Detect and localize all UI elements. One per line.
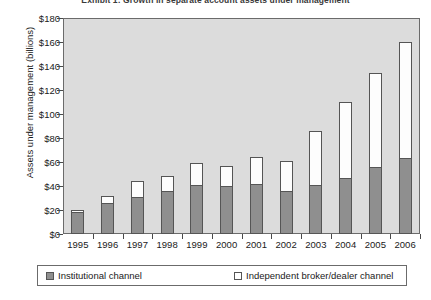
bar-column bbox=[190, 18, 203, 234]
bar-segment-broker-dealer bbox=[131, 181, 144, 198]
bar-segment-broker-dealer bbox=[220, 166, 233, 187]
chart-legend: Institutional channel Independent broker… bbox=[37, 265, 407, 286]
chart-figure: Exhibit 1: Growth in separate account as… bbox=[0, 0, 431, 300]
plot-area bbox=[63, 18, 420, 234]
bar-segment-institutional bbox=[131, 197, 144, 234]
y-axis-tick-mark bbox=[57, 66, 63, 67]
y-axis-tick-mark bbox=[57, 234, 63, 235]
bar-segment-broker-dealer bbox=[280, 161, 293, 192]
bar-segment-institutional bbox=[309, 185, 322, 234]
bar-segment-institutional bbox=[250, 184, 263, 234]
chart-title: Exhibit 1: Growth in separate account as… bbox=[0, 0, 431, 5]
bar-column bbox=[339, 18, 352, 234]
y-axis-tick-mark bbox=[57, 162, 63, 163]
legend-item-broker-dealer: Independent broker/dealer channel bbox=[234, 270, 393, 282]
y-axis-tick-mark bbox=[57, 138, 63, 139]
bar-segment-broker-dealer bbox=[309, 131, 322, 186]
y-axis-tick-label: $100 bbox=[20, 109, 60, 120]
legend-swatch-icon-institutional bbox=[46, 272, 54, 280]
y-axis-tick-mark bbox=[57, 90, 63, 91]
bar-segment-broker-dealer bbox=[190, 163, 203, 186]
legend-item-institutional: Institutional channel bbox=[46, 270, 142, 282]
bar-segment-broker-dealer bbox=[71, 210, 84, 213]
bar-column bbox=[399, 18, 412, 234]
y-axis-tick-mark bbox=[57, 186, 63, 187]
bar-segment-broker-dealer bbox=[369, 73, 382, 168]
bar-segment-broker-dealer bbox=[339, 102, 352, 179]
bar-column bbox=[309, 18, 322, 234]
bar-column bbox=[250, 18, 263, 234]
y-axis-tick-label: $140 bbox=[20, 61, 60, 72]
y-axis-tick-label: $0 bbox=[20, 229, 60, 240]
bar-segment-institutional bbox=[280, 191, 293, 234]
legend-swatch-icon-broker-dealer bbox=[234, 272, 242, 280]
bar-column bbox=[161, 18, 174, 234]
bar-column bbox=[101, 18, 114, 234]
y-axis-tick-label: $60 bbox=[20, 157, 60, 168]
bar-segment-broker-dealer bbox=[161, 176, 174, 191]
bar-column bbox=[71, 18, 84, 234]
y-axis-tick-mark bbox=[57, 114, 63, 115]
bar-column bbox=[131, 18, 144, 234]
bar-column bbox=[220, 18, 233, 234]
x-axis-tick-label: 2006 bbox=[385, 239, 425, 250]
bar-segment-broker-dealer bbox=[101, 196, 114, 204]
y-axis-tick-mark bbox=[57, 42, 63, 43]
y-axis-tick-mark bbox=[57, 210, 63, 211]
bar-segment-institutional bbox=[190, 185, 203, 234]
bar-segment-institutional bbox=[369, 167, 382, 234]
bar-column bbox=[280, 18, 293, 234]
bar-segment-broker-dealer bbox=[250, 157, 263, 184]
y-axis-tick-label: $40 bbox=[20, 181, 60, 192]
y-axis-tick-mark bbox=[57, 18, 63, 19]
bar-segment-institutional bbox=[399, 158, 412, 234]
y-axis-tick-label: $20 bbox=[20, 205, 60, 216]
bar-segment-institutional bbox=[161, 191, 174, 234]
bar-column bbox=[369, 18, 382, 234]
legend-label-broker-dealer: Independent broker/dealer channel bbox=[246, 270, 393, 281]
legend-label-institutional: Institutional channel bbox=[58, 270, 142, 281]
y-axis-tick-label: $180 bbox=[20, 13, 60, 24]
bar-segment-institutional bbox=[101, 203, 114, 234]
x-axis-tick-mark bbox=[420, 234, 421, 239]
bar-segment-institutional bbox=[339, 178, 352, 234]
bar-segment-institutional bbox=[71, 212, 84, 234]
y-axis-tick-label: $120 bbox=[20, 85, 60, 96]
y-axis-tick-label: $160 bbox=[20, 37, 60, 48]
bar-segment-institutional bbox=[220, 186, 233, 234]
bar-segment-broker-dealer bbox=[399, 42, 412, 159]
y-axis-tick-label: $80 bbox=[20, 133, 60, 144]
